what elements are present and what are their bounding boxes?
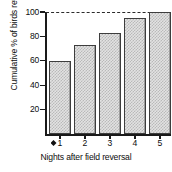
bar-5 [149,12,171,134]
y-tick-60 [40,60,45,61]
bar-1 [49,61,71,134]
x-tick-label-5: 5 [152,139,168,148]
bar-4 [124,18,146,134]
y-tick-label-40: 40 [30,81,39,90]
x-tick-label-2: 2 [77,139,93,148]
y-tick-40 [40,85,45,86]
y-tick-100 [40,11,45,12]
x-tick-label-4: 4 [127,139,143,148]
y-axis-title: Cumulative % of birds reversed [9,0,19,93]
x-axis-title: Nights after field reversal [0,152,172,162]
y-tick-label-80: 80 [30,32,39,41]
y-tick-label-60: 60 [30,56,39,65]
bar-3 [99,33,121,134]
y-tick-label-20: 20 [30,105,39,114]
y-tick-label-100: 100 [25,8,39,17]
y-tick-20 [40,109,45,110]
y-tick-80 [40,36,45,37]
plot-area [46,12,171,134]
x-axis-line [45,134,171,136]
chart-figure: Cumulative % of birds reversed 204060801… [0,0,172,172]
bar-2 [74,45,96,134]
x-tick-label-3: 3 [102,139,118,148]
